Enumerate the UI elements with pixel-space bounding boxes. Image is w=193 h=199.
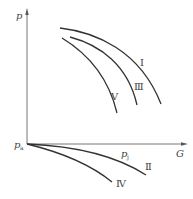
curve-V	[62, 38, 117, 113]
characteristic-diagram: p G p a p j I Ⅲ V Ⅱ Ⅳ	[0, 0, 193, 199]
curve-V-label: V	[110, 91, 119, 102]
y-axis-label: p	[16, 10, 23, 21]
y-axis-arrow-icon	[25, 8, 28, 15]
curve-I-label: I	[140, 57, 144, 68]
x-marker-subscript: j	[126, 153, 129, 161]
x-axis-label: G	[176, 148, 184, 159]
curve-III-label: Ⅲ	[134, 81, 144, 92]
origin-subscript: a	[20, 144, 24, 151]
curve-II-label: Ⅱ	[145, 161, 152, 172]
x-axis-arrow-icon	[181, 142, 188, 145]
curve-III	[70, 37, 137, 105]
curve-IV-label: Ⅳ	[116, 178, 127, 189]
curve-IV	[27, 144, 112, 182]
